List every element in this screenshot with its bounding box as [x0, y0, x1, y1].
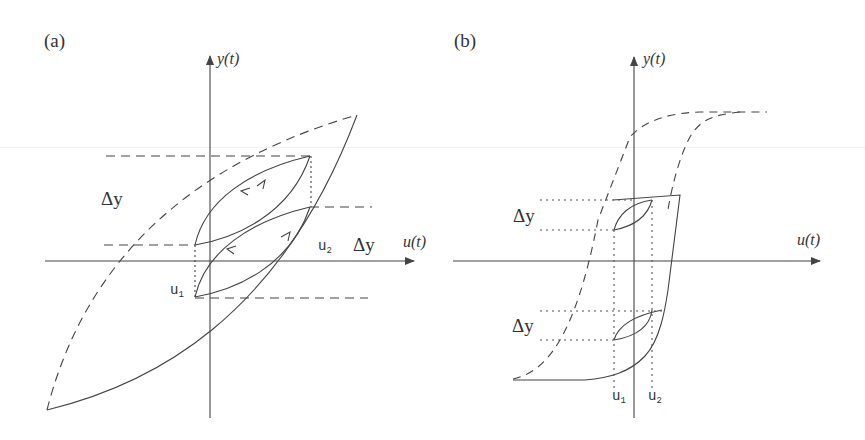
panel-a-major-loop-dashed: [47, 115, 357, 410]
panel-a-lower-minor-loop-rise: [195, 207, 310, 297]
panel-b-u1-label: u1: [612, 389, 626, 406]
panel-b-major-dashed-right: [667, 112, 740, 215]
panel-b-major-dashed-right-cont: [654, 215, 667, 290]
panel-a-upper-minor-loop-rise: [195, 156, 310, 245]
panel-a-u2-label: u2: [318, 239, 332, 256]
arrow-icon: [241, 188, 250, 195]
u2-subscript: 2: [656, 396, 661, 406]
u1-subscript: 1: [620, 396, 625, 406]
panel-b-major-solid: [513, 195, 680, 380]
panel-b-u2-label: u2: [648, 389, 662, 406]
panel-b-lower-minor-loop-a: [614, 310, 662, 340]
u1-subscript: 1: [178, 290, 183, 300]
panel-a-y-axis-label: y(t): [217, 51, 239, 67]
panel-b-x-axis-label: u(t): [797, 232, 820, 248]
panel-b-delta-y-lower: Δy: [512, 316, 534, 335]
panel-b-y-axis-label: y(t): [643, 51, 665, 67]
panel-b: [453, 57, 820, 418]
panel-a-x-axis-label: u(t): [403, 234, 426, 250]
panel-a-major-loop-solid: [47, 115, 357, 410]
panel-a-label: (a): [44, 31, 65, 50]
panel-a-upper-minor-loop-fall: [195, 156, 310, 245]
panel-a-u1-label: u1: [170, 283, 184, 300]
panel-b-label: (b): [454, 31, 476, 50]
arrow-icon: [227, 246, 236, 254]
panel-b-delta-y-upper: Δy: [513, 206, 535, 225]
arrow-icon: [257, 180, 265, 189]
panel-a-delta-y-right: Δy: [353, 235, 375, 254]
u2-subscript: 2: [326, 246, 331, 256]
panel-b-upper-minor-loop-a: [614, 200, 652, 230]
hysteresis-diagram: [0, 0, 865, 440]
panel-a-delta-y-left: Δy: [101, 189, 123, 208]
panel-b-major-dashed-left: [513, 112, 767, 379]
panel-b-upper-minor-loop-b: [614, 200, 652, 230]
panel-a-lower-minor-loop-fall: [195, 207, 310, 297]
arrow-icon: [281, 232, 290, 241]
